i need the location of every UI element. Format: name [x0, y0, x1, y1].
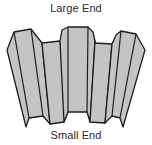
center-lobe — [60, 27, 95, 122]
fluted-shape-diagram — [0, 0, 152, 145]
small-end-label: Small End — [0, 129, 152, 141]
